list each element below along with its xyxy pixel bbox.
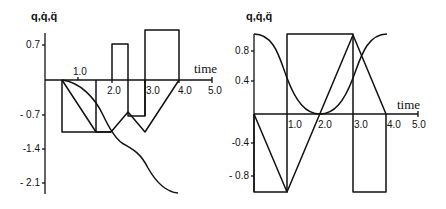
right-position-series: [254, 34, 387, 114]
right-xtick-5.0: 5.0: [412, 119, 426, 130]
right-xtick-2.0: 2.0: [318, 119, 332, 130]
right-ytick-0.8: 0.8: [235, 45, 249, 56]
left-x-axis-label: time: [194, 61, 217, 76]
right-x-axis-label: time: [397, 97, 420, 112]
left-position-series: [62, 80, 178, 193]
left-y-axis-label: q,q̇,q̈: [31, 10, 57, 22]
left-ytick-neg1.4: -1.4: [23, 143, 41, 154]
right-xtick-3.0: 3.0: [354, 119, 368, 130]
figure: q,q̇,q̈ 0.7 - 0.7 -1.4 - 2.1 1.0 2.0 3.0…: [0, 0, 446, 209]
left-chart: q,q̇,q̈ 0.7 - 0.7 -1.4 - 2.1 1.0 2.0 3.0…: [20, 10, 222, 194]
left-ytick-neg2.1: - 2.1: [20, 177, 40, 188]
left-xtick-1.0: 1.0: [73, 66, 87, 77]
left-xtick-3.0: 3.0: [146, 85, 160, 96]
right-ytick-neg0.8: - 0.8: [229, 170, 249, 181]
left-ytick-neg0.7: - 0.7: [20, 109, 40, 120]
left-acceleration-series: [62, 80, 111, 132]
left-xtick-2.0: 2.0: [107, 85, 121, 96]
right-chart: q,q̇,q̈ 0.8 0.4 -0.4 - 0.8 1.0 2.0 3.0 4…: [229, 10, 426, 192]
right-xtick-1.0: 1.0: [288, 119, 302, 130]
left-xtick-5.0: 5.0: [208, 85, 222, 96]
right-ytick-0.4: 0.4: [235, 75, 249, 86]
left-ytick-0.7: 0.7: [26, 39, 40, 50]
right-xtick-4.0: 4.0: [387, 119, 401, 130]
right-ytick-neg0.4: -0.4: [232, 137, 250, 148]
left-xtick-4.0: 4.0: [178, 85, 192, 96]
right-y-axis-label: q,q̇,q̈: [246, 10, 272, 22]
